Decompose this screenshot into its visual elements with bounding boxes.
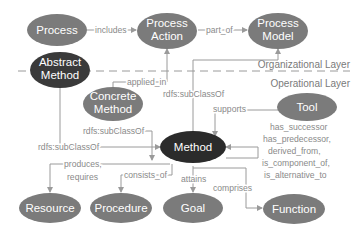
svg-text:Method: Method [94,103,132,115]
node-process[interactable]: Process [27,14,87,46]
svg-text:Method: Method [41,69,79,81]
edge-label-subclass-abstract: rdfs:subClassOf [38,142,100,152]
ontology-diagram: Organizational Layer Operational Layer i… [0,0,357,237]
edge-label-subclass-concrete-action: rdfs:subClassOf [163,89,225,99]
node-procedure[interactable]: Procedure [90,193,152,223]
edge-label-consists-of: consists_of [124,170,168,180]
node-process-action[interactable]: Process Action [137,13,197,49]
svg-text:Resource: Resource [25,202,74,214]
node-abstract-method[interactable]: Abstract Method [30,52,90,88]
edge-label-applied-in: applied_in [127,77,166,87]
svg-text:Abstract: Abstract [39,56,82,68]
svg-text:Process: Process [146,17,188,29]
svg-text:Process: Process [36,24,78,36]
edge-label-supports: supports [213,104,246,114]
node-method[interactable]: Method [160,131,226,163]
edge-self-relations [226,147,258,158]
svg-text:Model: Model [262,30,293,42]
organizational-layer-label: Organizational Layer [258,59,351,70]
svg-text:Method: Method [174,141,212,153]
node-function[interactable]: Function [263,194,325,224]
svg-text:Process: Process [257,17,299,29]
svg-text:Tool: Tool [296,101,317,113]
svg-text:Action: Action [151,30,183,42]
svg-text:Procedure: Procedure [94,202,147,214]
node-resource[interactable]: Resource [19,193,81,223]
edge-label-comprises: comprises [213,183,252,193]
node-goal[interactable]: Goal [163,193,223,223]
edge-label-self-relations: has_successor has_predecessor, derived_f… [262,122,333,180]
svg-text:Function: Function [272,203,316,215]
edge-label-part-of: part_of [206,25,233,35]
svg-text:Goal: Goal [181,202,205,214]
node-tool[interactable]: Tool [277,93,337,121]
operational-layer-label: Operational Layer [271,78,351,89]
edge-label-attains: attains [181,174,206,184]
edge-label-includes: includes [95,25,127,35]
edge-label-requires: requires [67,172,98,182]
edge-label-produces: produces, [64,159,102,169]
node-process-model[interactable]: Process Model [248,13,308,49]
node-concrete-method[interactable]: Concrete Method [83,87,143,121]
edge-label-subclass-concrete: rdfs:subClassOf [83,126,145,136]
svg-text:Concrete: Concrete [90,90,137,102]
